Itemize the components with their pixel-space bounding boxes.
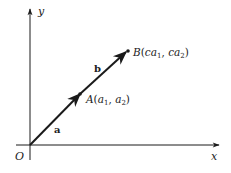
- point-b-label: B(ca1, ca2): [132, 46, 189, 60]
- point-a-label: A(a1, a2): [85, 93, 130, 107]
- point-a-dot: [78, 92, 82, 96]
- vector-b-label: b: [94, 63, 101, 74]
- origin-label: O: [15, 150, 24, 163]
- y-axis-label: y: [37, 5, 45, 18]
- x-axis-label: x: [211, 150, 218, 163]
- vector-a: [30, 94, 80, 145]
- vector-b: [80, 52, 126, 94]
- point-b-dot: [126, 49, 130, 53]
- vector-a-label: a: [54, 124, 61, 135]
- vector-diagram: y x O a b A(a1, a2) B(ca1, ca2): [0, 0, 231, 173]
